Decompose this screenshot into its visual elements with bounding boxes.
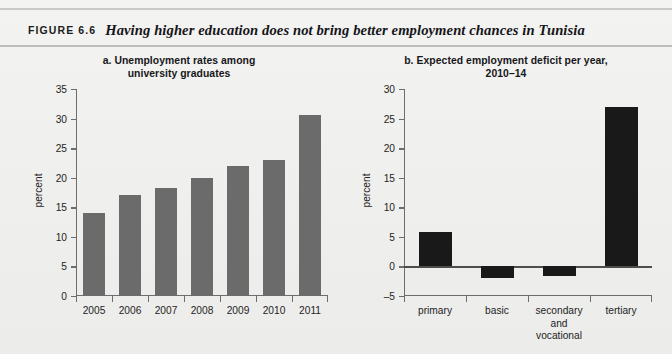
panel-b-y-tick <box>399 178 405 179</box>
panel-b-y-tick-label: 30 <box>384 84 395 95</box>
panel-b: b.Expected employment deficit per year, … <box>344 50 668 350</box>
panel-a-y-tick <box>71 119 77 120</box>
panel-a-y-tick-label: 5 <box>61 261 67 272</box>
panel-a-x-label: 2005 <box>83 305 106 318</box>
figure-header: FIGURE 6.6 Having higher education does … <box>28 18 648 42</box>
panel-a-y-tick <box>71 89 77 90</box>
panel-b-x-label: primary <box>418 305 452 318</box>
panel-a-y-tick <box>71 207 77 208</box>
bar <box>481 266 514 278</box>
panel-b-y-tick-label: 0 <box>389 261 395 272</box>
panel-a-x-label: 2007 <box>155 305 178 318</box>
panel-b-x-tick <box>528 296 529 302</box>
panel-b-plot: –5051015202530primarybasicsecondaryandvo… <box>404 89 652 296</box>
charts-area: a.Unemployment rates among university gr… <box>0 50 672 350</box>
panel-b-y-axis <box>404 89 405 296</box>
panel-a-y-tick-label: 10 <box>56 231 67 242</box>
panel-b-y-tick-label: 15 <box>384 172 395 183</box>
panel-a-x-label-line: 2009 <box>227 305 250 316</box>
bar <box>155 188 177 296</box>
panel-a-x-label: 2008 <box>191 305 214 318</box>
panel-b-y-tick <box>399 119 405 120</box>
panel-a-y-axis <box>76 89 77 296</box>
panel-a-y-tick-label: 15 <box>56 202 67 213</box>
bar <box>299 115 321 296</box>
panel-b-y-tick <box>399 89 405 90</box>
panel-b-x-label-line: secondary <box>535 305 582 316</box>
panel-a-y-tick <box>71 266 77 267</box>
bar <box>543 266 576 275</box>
top-divider <box>0 8 672 10</box>
panel-a-x-tick <box>292 296 293 302</box>
panel-a-x-label-line: 2008 <box>191 305 214 316</box>
panel-b-y-tick-label: 5 <box>389 231 395 242</box>
panel-a-x-tick <box>256 296 257 302</box>
panel-b-x-tick <box>651 296 652 302</box>
panel-b-x-label-line: tertiary <box>605 305 636 316</box>
figure-container: FIGURE 6.6 Having higher education does … <box>0 0 672 354</box>
panel-b-x-tick <box>590 296 591 302</box>
panel-a-x-label: 2010 <box>263 305 286 318</box>
panel-a-y-tick <box>71 148 77 149</box>
panel-b-zero-line <box>404 266 652 267</box>
bar <box>83 213 105 296</box>
panel-a-x-tick <box>327 296 328 302</box>
panel-a-y-tick-label: 0 <box>61 291 67 302</box>
panel-a-title-line2: university graduates <box>128 68 231 79</box>
panel-b-x-tick <box>466 296 467 302</box>
bar <box>419 232 452 266</box>
panel-b-title-line2: 2010–14 <box>486 68 527 79</box>
bar <box>263 160 285 296</box>
panel-a-y-axis-title: percent <box>33 174 44 208</box>
panel-a-x-label: 2009 <box>227 305 250 318</box>
panel-a-x-tick <box>76 296 77 302</box>
bar <box>605 107 638 266</box>
bar <box>119 195 141 296</box>
figure-number: FIGURE 6.6 <box>28 24 96 36</box>
panel-b-x-label: basic <box>485 305 509 318</box>
panel-a-y-tick-label: 25 <box>56 143 67 154</box>
panel-a-title-line1: Unemployment rates among <box>114 55 255 66</box>
panel-a-y-tick-label: 30 <box>56 113 67 124</box>
panel-a-plot: 0510152025303520052006200720082009201020… <box>76 89 328 296</box>
panel-b-y-tick-label: 25 <box>384 113 395 124</box>
panel-a-x-label: 2006 <box>119 305 142 318</box>
panel-a-x-label-line: 2007 <box>155 305 178 316</box>
panel-b-y-axis-title: percent <box>361 174 372 208</box>
panel-a-x-tick <box>148 296 149 302</box>
bar <box>227 166 249 296</box>
panel-b-y-tick <box>399 207 405 208</box>
panel-b-x-label-line: primary <box>418 305 452 316</box>
header-divider <box>0 45 672 47</box>
panel-b-title-line1: Expected employment deficit per year, <box>417 55 608 66</box>
panel-b-x-tick <box>404 296 405 302</box>
panel-b-x-label-line: and <box>550 318 567 329</box>
panel-a-y-tick <box>71 237 77 238</box>
panel-b-title: b.Expected employment deficit per year, … <box>344 54 668 81</box>
panel-b-y-tick-label: –5 <box>384 291 395 302</box>
panel-a-x-label-line: 2005 <box>83 305 106 316</box>
panel-a-x-tick <box>220 296 221 302</box>
panel-b-x-label: secondaryandvocational <box>535 305 582 343</box>
panel-a-y-tick-label: 35 <box>56 84 67 95</box>
panel-a-x-label-line: 2011 <box>299 305 321 316</box>
panel-a-x-label-line: 2010 <box>263 305 286 316</box>
panel-b-y-tick <box>399 237 405 238</box>
bar <box>191 178 213 296</box>
panel-a-x-label-line: 2006 <box>119 305 142 316</box>
panel-a-y-tick <box>71 178 77 179</box>
panel-a-x-tick <box>184 296 185 302</box>
panel-b-x-label-line: basic <box>485 305 509 316</box>
panel-b-label: b. <box>404 55 413 66</box>
panel-a: a.Unemployment rates among university gr… <box>14 50 344 350</box>
panel-b-y-tick-label: 20 <box>384 143 395 154</box>
panel-a-x-label: 2011 <box>299 305 321 318</box>
figure-title: Having higher education does not bring b… <box>105 22 585 39</box>
panel-b-x-label: tertiary <box>605 305 636 318</box>
panel-b-y-tick-label: 10 <box>384 202 395 213</box>
panel-a-label: a. <box>103 55 112 66</box>
panel-b-y-tick <box>399 148 405 149</box>
panel-a-title: a.Unemployment rates among university gr… <box>14 54 344 81</box>
panel-a-x-tick <box>112 296 113 302</box>
panel-b-x-label-line: vocational <box>536 330 582 341</box>
